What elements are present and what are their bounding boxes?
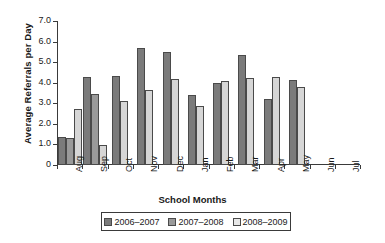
y-axis-title: Average Referrals per Day [22, 9, 33, 159]
bar-group [82, 21, 107, 165]
y-tick-label: 7.0 [38, 15, 51, 25]
bar-group [284, 21, 309, 165]
bar [112, 76, 120, 165]
bar [120, 101, 128, 165]
legend-item: 2008–2009 [233, 217, 288, 227]
x-axis-label: Apr [276, 158, 286, 172]
bar [171, 79, 179, 165]
bar [188, 95, 196, 165]
bar [58, 137, 66, 165]
y-tick-label: 6.0 [38, 36, 51, 46]
y-tick-label: 5.0 [38, 56, 51, 66]
y-tick-label: 3.0 [38, 97, 51, 107]
bar-group [310, 21, 335, 165]
x-axis-title: School Months [0, 194, 385, 205]
bar [163, 52, 171, 165]
y-tick-label: 1.0 [38, 138, 51, 148]
legend-swatch-icon [104, 218, 112, 226]
bar-group [57, 21, 82, 165]
bar [83, 77, 91, 165]
x-axis-label: Feb [225, 156, 235, 172]
legend-label: 2008–2009 [243, 217, 288, 227]
bar-group [133, 21, 158, 165]
bar [238, 55, 246, 165]
x-axis-label: Mar [250, 157, 260, 173]
bar [145, 90, 153, 165]
bar [137, 48, 145, 165]
x-axis-label: Dec [175, 156, 185, 172]
bar [91, 94, 99, 165]
legend-label: 2006–2007 [114, 217, 159, 227]
plot-area: 01.02.03.04.05.06.07.0 [57, 21, 360, 165]
legend-swatch-icon [233, 218, 241, 226]
legend-label: 2007–2008 [178, 217, 223, 227]
x-axis-label: Oct [124, 158, 134, 172]
bar-group [234, 21, 259, 165]
y-tick-label: 4.0 [38, 77, 51, 87]
x-axis-label: Jul [351, 160, 361, 172]
x-tick-mark [57, 165, 58, 169]
bar [297, 87, 305, 165]
legend-item: 2006–2007 [104, 217, 159, 227]
y-tick-label: 2.0 [38, 118, 51, 128]
chart-legend: 2006–20072007–20082008–2009 [101, 212, 291, 231]
legend-item: 2007–2008 [168, 217, 223, 227]
bar [289, 80, 297, 165]
bar [66, 138, 74, 165]
bar [213, 83, 221, 165]
bar-group [259, 21, 284, 165]
bar [221, 81, 229, 165]
x-axis-label: Jun [326, 157, 336, 172]
x-axis-label: Aug [74, 156, 84, 172]
bar-group [183, 21, 208, 165]
x-axis-label: May [301, 155, 311, 172]
x-axis-label: Nov [149, 156, 159, 172]
bar-group [335, 21, 360, 165]
bar-group [209, 21, 234, 165]
bar [272, 77, 280, 165]
x-axis-label: Sep [99, 156, 109, 172]
bar [196, 106, 204, 165]
bar-group [158, 21, 183, 165]
y-tick-label: 0 [46, 159, 51, 169]
bar [246, 78, 254, 165]
legend-swatch-icon [168, 218, 176, 226]
bar-chart: Average Referrals per Day 01.02.03.04.05… [0, 0, 385, 243]
bar [264, 99, 272, 165]
x-axis-label: Jan [200, 157, 210, 172]
bar-group [108, 21, 133, 165]
